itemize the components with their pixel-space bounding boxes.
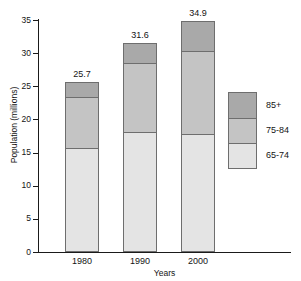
x-axis-title: Years [38,268,291,278]
y-axis-title: Population (millions) [9,55,19,195]
bar-2000 [181,21,215,252]
plot-area: 05101520253035 Population (millions) 25.… [0,0,301,281]
y-axis-tick-label: 5 [0,214,31,223]
bar-total-label-1990: 31.6 [110,30,170,40]
y-axis-tick-label: 0 [0,248,31,257]
population-stacked-bar-chart: 05101520253035 Population (millions) 25.… [0,0,301,281]
bar-1980 [65,82,99,252]
bar-segment-75-84 [124,63,156,132]
bar-segment-85+ [66,83,98,97]
y-axis-tick [33,186,39,187]
legend-label-65-74: 65-74 [266,150,289,160]
x-axis-label-1980: 1980 [52,256,112,267]
legend-swatch-65-74 [229,143,256,168]
bar-segment-85+ [182,22,214,51]
y-axis-tick-label-text: 0 [1,248,31,257]
bar-segment-65-74 [124,132,156,252]
bar-total-label-2000: 34.9 [168,8,228,18]
y-axis-tick [33,119,39,120]
legend-label-85+: 85+ [266,100,281,110]
legend-swatch-85+ [229,93,256,118]
bar-segment-65-74 [182,134,214,252]
bar-segment-75-84 [182,51,214,134]
x-axis-label-2000: 2000 [168,256,228,267]
bar-segment-65-74 [66,148,98,252]
y-axis-tick-label-text: 35 [1,16,31,25]
y-axis-tick [33,20,39,21]
y-axis-tick-label-text: 5 [1,214,31,223]
y-axis-tick [33,86,39,87]
bar-total-label-1980: 25.7 [52,69,112,79]
bar-segment-85+ [124,44,156,63]
y-axis-tick [33,219,39,220]
legend-label-75-84: 75-84 [266,125,289,135]
y-axis-tick [33,153,39,154]
y-axis-tick-label: 35 [0,16,31,25]
legend-swatch-75-84 [229,118,256,143]
y-axis-tick [33,53,39,54]
x-axis-label-1990: 1990 [110,256,170,267]
bar-1990 [123,43,157,252]
bar-segment-75-84 [66,97,98,149]
legend-swatch-stack [228,92,257,169]
x-axis-line [38,252,291,253]
y-axis-tick [33,252,39,253]
